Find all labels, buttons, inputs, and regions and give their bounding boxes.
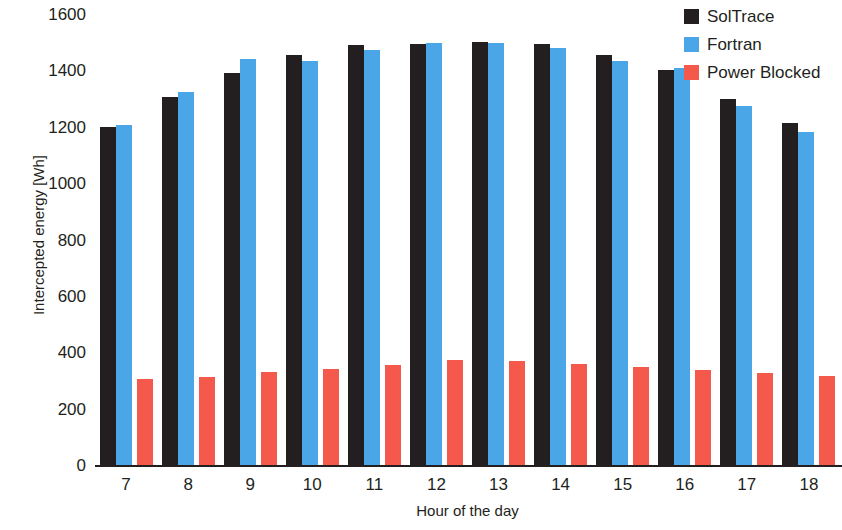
x-tick-label: 8 — [157, 472, 219, 498]
bar-blocked-11 — [385, 365, 401, 465]
bar-blocked-10 — [323, 369, 339, 465]
bar-group-14 — [530, 14, 592, 465]
legend-label: SolTrace — [707, 8, 774, 25]
x-tick-label: 12 — [405, 472, 467, 498]
legend-label: Power Blocked — [707, 64, 820, 81]
bar-group-15 — [592, 14, 654, 465]
x-tick-label: 9 — [219, 472, 281, 498]
bar-blocked-8 — [199, 377, 215, 465]
bar-blocked-7 — [137, 379, 153, 465]
bar-soltrace-12 — [410, 44, 426, 465]
x-axis-ticks: 789101112131415161718 — [95, 472, 840, 498]
bar-soltrace-10 — [286, 55, 302, 465]
bar-group-8 — [157, 14, 219, 465]
bar-group-12 — [405, 14, 467, 465]
bar-group-11 — [343, 14, 405, 465]
bar-chart-figure: Intercepted energy [Wh] 1600140012001000… — [0, 0, 842, 530]
y-tick-label: 1200 — [16, 118, 86, 135]
bar-blocked-9 — [261, 372, 277, 465]
bar-fortran-11 — [364, 50, 380, 465]
bar-fortran-18 — [798, 132, 814, 465]
bar-blocked-15 — [633, 367, 649, 465]
y-tick-label: 1400 — [16, 62, 86, 79]
bar-soltrace-11 — [348, 45, 364, 465]
x-tick-label: 7 — [95, 472, 157, 498]
bar-fortran-10 — [302, 61, 318, 465]
bar-soltrace-16 — [658, 70, 674, 465]
x-tick-label: 13 — [467, 472, 529, 498]
bar-soltrace-8 — [162, 97, 178, 465]
bar-group-9 — [219, 14, 281, 465]
y-axis-ticks: 16001400120010008006004002000 — [8, 14, 86, 465]
x-tick-label: 17 — [716, 472, 778, 498]
bar-fortran-9 — [240, 59, 256, 465]
chart-legend: SolTraceFortranPower Blocked — [684, 8, 820, 81]
y-tick-label: 600 — [16, 287, 86, 304]
legend-swatch-icon — [684, 37, 699, 52]
bar-blocked-18 — [819, 376, 835, 465]
x-axis-label: Hour of the day — [95, 502, 840, 519]
y-tick-label: 400 — [16, 344, 86, 361]
bar-fortran-16 — [674, 68, 690, 465]
bar-fortran-17 — [736, 106, 752, 465]
bar-fortran-15 — [612, 61, 628, 465]
bar-blocked-17 — [757, 373, 773, 465]
bar-fortran-12 — [426, 43, 442, 465]
y-tick-label: 1600 — [16, 6, 86, 23]
x-tick-label: 18 — [778, 472, 840, 498]
bar-blocked-16 — [695, 370, 711, 465]
bar-soltrace-17 — [720, 99, 736, 465]
legend-item-soltrace: SolTrace — [684, 8, 820, 25]
bar-soltrace-14 — [534, 44, 550, 465]
x-tick-label: 11 — [343, 472, 405, 498]
x-tick-label: 10 — [281, 472, 343, 498]
y-tick-label: 800 — [16, 231, 86, 248]
bar-soltrace-7 — [100, 127, 116, 465]
bar-fortran-8 — [178, 92, 194, 465]
bar-soltrace-13 — [472, 42, 488, 465]
y-tick-label: 1000 — [16, 175, 86, 192]
x-tick-label: 15 — [592, 472, 654, 498]
bar-soltrace-15 — [596, 55, 612, 465]
y-tick-label: 200 — [16, 400, 86, 417]
legend-label: Fortran — [707, 36, 762, 53]
legend-swatch-icon — [684, 9, 699, 24]
y-tick-label: 0 — [16, 457, 86, 474]
legend-item-fortran: Fortran — [684, 36, 820, 53]
bar-soltrace-9 — [224, 73, 240, 465]
x-axis-line — [95, 465, 842, 467]
x-tick-label: 16 — [654, 472, 716, 498]
bar-fortran-14 — [550, 48, 566, 465]
bar-group-10 — [281, 14, 343, 465]
bar-blocked-12 — [447, 360, 463, 465]
bar-soltrace-18 — [782, 123, 798, 465]
bar-fortran-7 — [116, 125, 132, 465]
bar-fortran-13 — [488, 43, 504, 465]
x-tick-label: 14 — [530, 472, 592, 498]
legend-item-power-blocked: Power Blocked — [684, 64, 820, 81]
bar-blocked-13 — [509, 361, 525, 465]
bar-blocked-14 — [571, 364, 587, 465]
legend-swatch-icon — [684, 65, 699, 80]
bar-group-13 — [467, 14, 529, 465]
bar-group-7 — [95, 14, 157, 465]
